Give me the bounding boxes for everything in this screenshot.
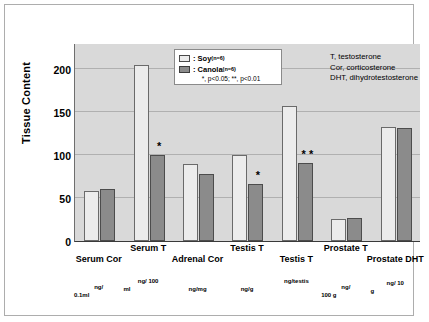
x-label-prostate-t-5: Prostate T	[305, 243, 386, 253]
x-label-serum-cor-0: Serum Cor	[58, 254, 139, 264]
y-tick-100: 100	[45, 151, 71, 162]
bar-soy	[331, 219, 346, 241]
x-label-testis-t-4: Testis T	[256, 254, 337, 264]
bar-soy	[84, 191, 99, 241]
y-tick-50: 50	[45, 194, 71, 205]
legend-pvalue-note: *, p<0.05; **, p<0.01	[179, 75, 277, 82]
x-unit-6: ng/ 10g	[359, 279, 429, 295]
bar-canola	[298, 163, 313, 241]
bar-canola	[397, 128, 412, 241]
legend-n-canola: (n=6)	[223, 66, 236, 72]
x-label-adrenal-cor-2: Adrenal Cor	[157, 254, 238, 264]
bar-canola	[100, 189, 115, 242]
bar-soy	[134, 65, 149, 241]
chart-legend: : Soy (n=6) : Canola (n=6) *, p<0.05; **…	[174, 49, 282, 85]
legend-label-soy: : Soy	[193, 54, 211, 63]
legend-item-canola: : Canola (n=6)	[179, 64, 277, 74]
legend-swatch-canola	[179, 66, 190, 73]
bar-canola	[199, 174, 214, 241]
significance-marker: *	[247, 170, 269, 181]
significance-marker: *	[148, 141, 170, 152]
x-unit-3: ng/g	[210, 285, 283, 293]
bar-soy	[282, 106, 297, 241]
x-axis-unit-labels: ng/0.1mlng/ 100mlng/mgng/gng/testisng/10…	[74, 277, 422, 303]
y-tick-150: 150	[45, 108, 71, 119]
figure-frame: Tissue Content 200 150 100 50 0 *** * : …	[4, 4, 414, 316]
bar-canola	[347, 218, 362, 241]
bar-group	[75, 44, 124, 241]
significance-marker: * *	[296, 149, 318, 160]
bar-soy	[232, 155, 247, 241]
plot-region: *** * : Soy (n=6) : Canola (n=6) *, p<0.…	[74, 44, 420, 242]
abbrev-line-cor: Cor, corticosterone	[330, 63, 429, 74]
x-axis-category-labels: Serum CorSerum TAdrenal CorTestis TTesti…	[74, 243, 422, 273]
abbrev-line-t: T, testosterone	[330, 52, 429, 63]
legend-item-soy: : Soy (n=6)	[179, 53, 277, 63]
bar-canola	[248, 184, 263, 241]
bar-soy	[183, 164, 198, 241]
y-tick-200: 200	[45, 65, 71, 76]
x-label-serum-t-1: Serum T	[107, 243, 188, 253]
x-label-prostate-dht-6: Prostate DHT	[355, 254, 429, 264]
bar-soy	[381, 127, 396, 241]
legend-label-canola: : Canola	[193, 65, 223, 74]
bar-canola	[150, 155, 165, 241]
x-label-testis-t-3: Testis T	[206, 243, 287, 253]
y-axis-title: Tissue Content	[20, 38, 32, 168]
abbrev-line-dht: DHT, dihydrotestosterone	[330, 73, 429, 84]
abbreviation-key: T, testosterone Cor, corticosterone DHT,…	[330, 52, 429, 84]
y-axis-tick-labels: 200 150 100 50 0	[43, 44, 71, 244]
legend-n-soy: (n=6)	[211, 55, 224, 61]
legend-swatch-soy	[179, 55, 190, 62]
y-tick-0: 0	[45, 237, 71, 248]
